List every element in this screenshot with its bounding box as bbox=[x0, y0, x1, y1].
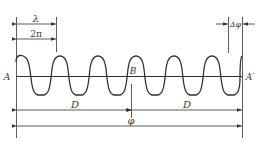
d-right-label: D bbox=[182, 99, 191, 110]
point-b-label: B bbox=[129, 66, 137, 76]
phi-label: φ bbox=[127, 115, 134, 126]
point-a-label: A bbox=[3, 72, 11, 82]
point-a-prime-label: A′ bbox=[245, 72, 255, 82]
wave-diagram: λ 2π Δφ A A′ B D D φ bbox=[0, 0, 272, 145]
d-left-label: D bbox=[70, 99, 79, 110]
lambda-label: λ bbox=[32, 13, 39, 24]
two-pi-label: 2π bbox=[30, 29, 42, 39]
delta-phi-label: Δφ bbox=[229, 20, 242, 29]
